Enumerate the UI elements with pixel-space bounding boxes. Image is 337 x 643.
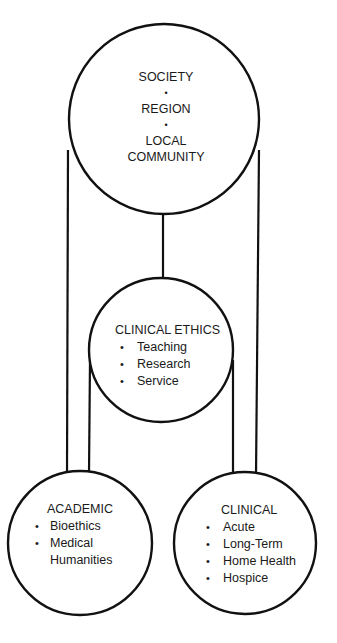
list-item-label: Long-Term	[223, 537, 283, 551]
edge-society-clinical	[256, 150, 259, 476]
society-line-4: COMMUNITY	[127, 149, 204, 165]
list-item: • Hospice	[205, 570, 296, 587]
list-item-label: Humanities	[50, 553, 113, 567]
list-item: • Medical	[34, 535, 113, 552]
society-line-3: LOCAL	[127, 133, 204, 149]
edge-clinical-ethics-academic	[89, 360, 90, 473]
list-item-label: Hospice	[223, 571, 268, 585]
separator-dot: •	[127, 85, 204, 101]
list-item-label: Home Health	[223, 554, 296, 568]
list-item-label: Service	[137, 374, 179, 388]
edge-society-academic	[67, 150, 68, 474]
clinical-ethics-title: CLINICAL ETHICS	[115, 322, 220, 339]
bullet-icon: •	[35, 535, 39, 552]
node-society-label: SOCIETY • REGION • LOCAL COMMUNITY	[127, 69, 204, 165]
society-line-2: REGION	[127, 101, 204, 117]
list-item-label: Research	[137, 357, 191, 371]
node-clinical-ethics-label: CLINICAL ETHICS • Teaching • Research • …	[115, 322, 220, 390]
list-item-label: Acute	[223, 520, 255, 534]
bullet-icon: •	[35, 518, 39, 535]
node-clinical-label: CLINICAL • Acute • Long-Term • Home Heal…	[205, 502, 296, 587]
list-item: • Research	[115, 356, 220, 373]
separator-dot: •	[127, 117, 204, 133]
society-line-1: SOCIETY	[127, 69, 204, 85]
list-item: • Home Health	[205, 553, 296, 570]
clinical-title: CLINICAL	[205, 502, 296, 519]
bullet-icon: •	[120, 356, 124, 373]
bullet-icon: •	[120, 373, 124, 390]
bullet-icon: •	[206, 570, 210, 587]
list-item: • Bioethics	[34, 518, 113, 535]
list-item: • Acute	[205, 519, 296, 536]
bullet-icon: •	[206, 536, 210, 553]
list-item: • Teaching	[115, 339, 220, 356]
bullet-icon: •	[120, 339, 124, 356]
list-item-continuation: Humanities	[34, 552, 113, 569]
bullet-icon: •	[206, 519, 210, 536]
list-item-label: Bioethics	[50, 519, 101, 533]
bullet-icon: •	[206, 553, 210, 570]
list-item: • Long-Term	[205, 536, 296, 553]
node-academic-label: ACADEMIC • Bioethics • Medical Humanitie…	[34, 501, 113, 569]
list-item: • Service	[115, 373, 220, 390]
list-item-label: Teaching	[137, 340, 187, 354]
list-item-label: Medical	[50, 536, 93, 550]
academic-title: ACADEMIC	[34, 501, 113, 518]
